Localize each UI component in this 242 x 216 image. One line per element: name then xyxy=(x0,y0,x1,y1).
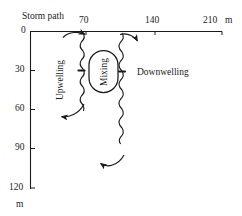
x-tick-label-70: 70 xyxy=(79,16,89,26)
storm-path-label: Storm path xyxy=(22,12,64,22)
arrow-deep-right xyxy=(101,155,125,166)
arrow-surface-left xyxy=(63,32,85,37)
y-tick-label-120: 120 xyxy=(9,183,23,193)
y-tick-label-90: 90 xyxy=(15,143,25,153)
x-axis-unit: m xyxy=(225,16,232,26)
left-axis xyxy=(31,31,36,189)
diagram-canvas xyxy=(0,0,242,216)
left-wavy-plume-line xyxy=(80,33,84,111)
x-tick-label-210: 210 xyxy=(203,16,217,26)
downwelling-label: Downwelling xyxy=(137,68,189,78)
y-tick-label-30: 30 xyxy=(15,65,25,75)
y-axis-unit: m xyxy=(16,200,23,210)
arrow-deep-left xyxy=(62,104,85,117)
mixing-label: Mixing xyxy=(100,58,110,86)
right-wavy-plume-line xyxy=(119,33,123,144)
x-tick-label-140: 140 xyxy=(145,16,159,26)
upwelling-label: Upwelling xyxy=(56,60,66,100)
storm-upwelling-downwelling-diagram: Storm path 70 140 210 m 0 30 60 90 120 m… xyxy=(0,0,242,216)
y-tick-label-0: 0 xyxy=(21,26,26,36)
y-tick-label-60: 60 xyxy=(15,104,25,114)
